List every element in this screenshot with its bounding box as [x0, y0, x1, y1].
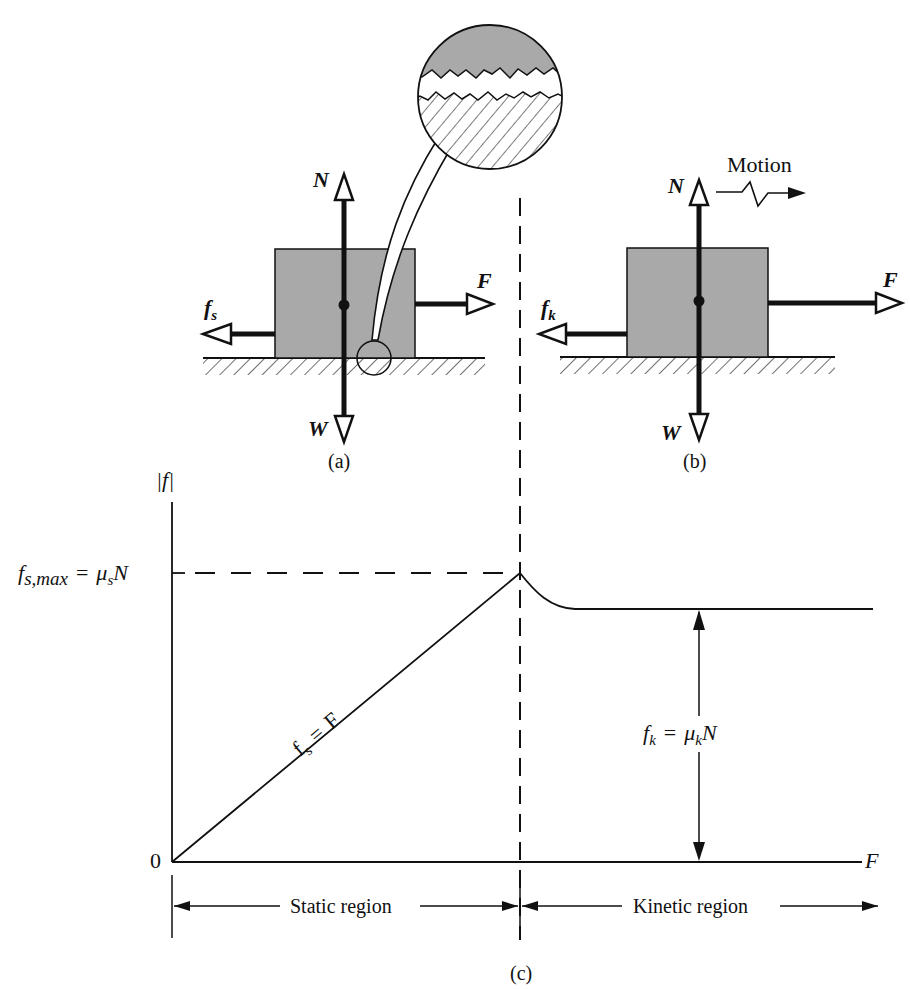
x-axis-label: F — [864, 848, 879, 873]
caption-a: (a) — [328, 450, 350, 473]
origin-label: 0 — [150, 848, 161, 873]
weight-arrow-icon — [335, 416, 353, 442]
weight-force-label: W — [661, 420, 682, 445]
panel-b: Motion N W F fk (b) — [539, 152, 902, 473]
friction-diagram: N W F fs (a) Motion N W F fk (b) — [0, 0, 910, 989]
normal-arrow-icon — [690, 180, 708, 205]
kinetic-friction-arrow-icon — [539, 324, 566, 344]
static-line-label: fs=F — [287, 707, 346, 763]
static-friction-arrow-icon — [203, 324, 231, 344]
motion-arrow-icon — [716, 182, 806, 206]
applied-force-arrow-icon — [467, 294, 493, 314]
panel-a: N W F fs (a) — [203, 20, 580, 473]
fsmax-label: fs,max=μsN — [18, 560, 129, 589]
applied-force-arrow-icon — [876, 293, 902, 313]
caption-b: (b) — [683, 450, 706, 473]
applied-force-label: F — [882, 267, 898, 292]
panel-c-graph: |f| F 0 fs,max=μsN fs=F fk=μkN Static re… — [18, 467, 879, 985]
caption-c: (c) — [510, 962, 532, 985]
motion-label: Motion — [727, 152, 792, 177]
kinetic-region-label: Kinetic region — [633, 895, 748, 918]
kinetic-friction-equation: fk=μkN — [643, 720, 718, 748]
normal-arrow-icon — [335, 174, 353, 200]
kinetic-friction-label: fk — [541, 295, 556, 323]
normal-force-label: N — [312, 167, 330, 192]
static-region-label: Static region — [290, 895, 392, 918]
applied-force-label: F — [476, 268, 492, 293]
y-axis-label: |f| — [156, 467, 174, 492]
static-friction-label: fs — [204, 295, 217, 323]
normal-force-label: N — [667, 173, 685, 198]
friction-curve — [172, 573, 873, 862]
weight-arrow-icon — [690, 414, 708, 440]
weight-force-label: W — [308, 416, 329, 441]
